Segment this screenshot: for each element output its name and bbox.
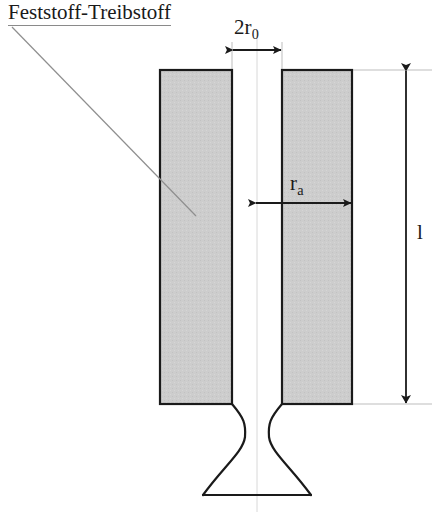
- outer-radius-label: ra: [290, 173, 304, 197]
- outer-radius-label-subscript: a: [297, 182, 304, 198]
- solid-propellant-rocket-diagram: Feststoff-Treibstoff 2r0 ra l: [0, 0, 440, 516]
- bore-diameter-label: 2r0: [234, 17, 259, 41]
- diagram-canvas: [0, 0, 440, 516]
- bore-diameter-label-base: 2r: [234, 15, 252, 39]
- nozzle-contour-left: [203, 404, 245, 495]
- propellant-grain-left: [160, 70, 232, 404]
- length-label: l: [417, 222, 423, 243]
- nozzle-contour-right: [269, 404, 311, 495]
- bore-diameter-label-subscript: 0: [252, 26, 259, 42]
- propellant-grain-right: [282, 70, 352, 404]
- outer-radius-label-base: r: [290, 171, 297, 195]
- propellant-material-label: Feststoff-Treibstoff: [8, 2, 171, 26]
